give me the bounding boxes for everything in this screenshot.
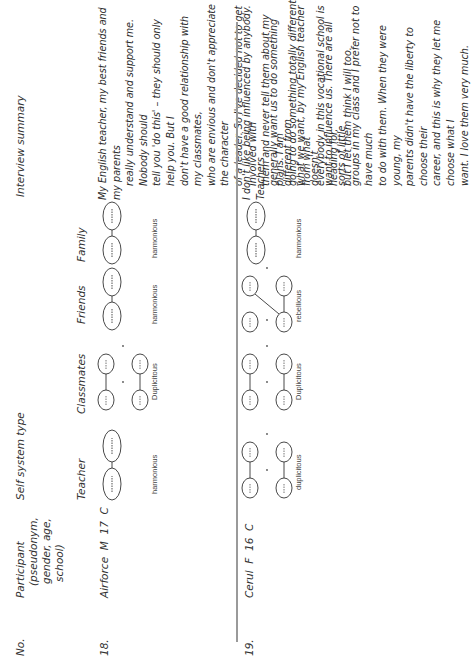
header-no: No. (14, 638, 27, 656)
teacher-diagram (240, 422, 296, 502)
family-diagram (96, 198, 130, 266)
friends-diagram (96, 264, 130, 332)
summary-line: want. I love them very much. (458, 0, 471, 200)
row-number: 18. (98, 639, 110, 656)
summary-line: I don't like being influenced by anybody… (240, 0, 267, 200)
duplicitous-pairs-icon (240, 334, 296, 414)
classmates-type: Duplicitous (150, 363, 159, 400)
rebellious-crossed-icon (240, 260, 296, 336)
row-number: 19. (243, 639, 255, 656)
row-divider (236, 22, 238, 642)
family-type: harmonious (150, 219, 159, 258)
friends-diagram (240, 260, 296, 336)
summary-line: My English teacher, my best friends and … (96, 0, 123, 200)
subheader-family: Family (75, 227, 88, 262)
summary-line: generally want us to do something differ… (267, 0, 294, 200)
header-participant-line: (pseudonym, (27, 517, 40, 598)
subheader-teacher: Teacher (75, 459, 88, 500)
summary-line: want to influence us. There are all sort… (322, 0, 349, 200)
subheader-friends: Friends (75, 285, 88, 324)
harmonious-pair-icon (96, 198, 130, 266)
summary-line: what we want, by my English teacher does… (294, 0, 321, 200)
classmates-diagram (96, 334, 152, 414)
summary-line: parents didn't have the liberty to choos… (403, 0, 430, 200)
participant-info: Cerul F 16 C (243, 524, 255, 598)
friends-type: harmonious (150, 285, 159, 324)
family-type: harmonious (294, 219, 303, 258)
header-participant-line: Participant (14, 517, 27, 598)
harmonious-pair-icon (96, 264, 130, 332)
family-diagram (240, 198, 274, 266)
summary-line: groups in my class and I prefer not to h… (349, 0, 376, 200)
summary-line: career, and this is why they let me choo… (430, 0, 457, 200)
interview-summary: I don't like being influenced by anybody… (240, 0, 471, 200)
teacher-type: harmonious (150, 455, 159, 494)
header-participant-line: gender, age, (40, 517, 53, 598)
teacher-type: duplicitous (294, 455, 303, 490)
classmates-type: Duplicitous (294, 363, 303, 400)
summary-line: tell you 'do this' – they should only he… (150, 0, 177, 200)
duplicitous-pairs-icon (96, 334, 152, 414)
subheader-classmates: Classmates (75, 354, 88, 414)
harmonious-pair-icon (96, 422, 130, 502)
header-self-system-type: Self system type (14, 412, 27, 500)
classmates-diagram (240, 334, 296, 414)
participant-info: Airforce M 17 C (98, 507, 110, 598)
summary-line: don't have a good relationship with my c… (178, 0, 205, 200)
summary-line: to do with them. When they were young, m… (376, 0, 403, 200)
friends-type: rebellious (294, 290, 303, 322)
header-participant: Participant (pseudonym, gender, age, sch… (14, 517, 66, 598)
summary-line: really understand and support me. Nobody… (123, 0, 150, 200)
duplicitous-pairs-icon (240, 422, 296, 502)
harmonious-pair-icon (240, 198, 274, 266)
summary-line: who are envious and don't appreciate the… (205, 0, 232, 200)
header-participant-line: school) (53, 517, 66, 598)
teacher-diagram (96, 422, 130, 502)
header-interview-summary: Interview summary (14, 95, 27, 197)
